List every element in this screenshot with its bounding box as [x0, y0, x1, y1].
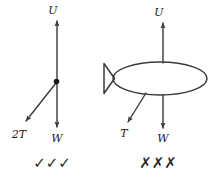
tension-arrow-shaft	[128, 93, 146, 122]
left-tension-arrow	[26, 83, 56, 121]
force-junction-node	[54, 79, 60, 85]
incorrect-verdict-marks: ✗✗✗	[139, 154, 177, 172]
correct-verdict-marks: ✓✓✓	[33, 154, 71, 172]
left-tension-label: 2T	[11, 128, 28, 141]
left-weight-label: W	[51, 132, 64, 145]
force-diagram-figure: U 2T W ✓✓✓ U T W ✗✗✗	[0, 0, 214, 178]
right-weight-label: W	[157, 132, 170, 145]
left-diagram-group: U 2T W ✓✓✓	[11, 4, 71, 172]
left-upthrust-label: U	[48, 4, 58, 17]
right-tension-arrow	[128, 93, 146, 122]
airship-body	[113, 62, 207, 95]
right-tension-label: T	[120, 127, 129, 140]
right-upthrust-label: U	[154, 6, 164, 19]
right-diagram-group: U T W ✗✗✗	[104, 6, 207, 172]
tension-arrow-shaft	[26, 83, 56, 121]
